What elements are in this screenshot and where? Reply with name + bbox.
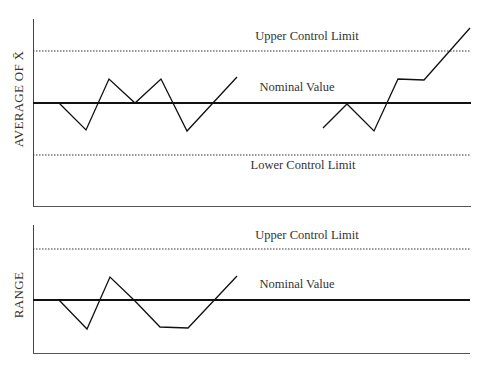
upper-control-limit-label: Upper Control Limit	[255, 228, 358, 243]
xbar-chart	[33, 19, 471, 207]
control-charts	[0, 0, 487, 371]
data-line-segment-1	[59, 276, 237, 329]
nominal-value-label: Nominal Value	[259, 277, 334, 292]
y-axis-label-range: RANGE	[11, 272, 27, 318]
lower-control-limit-label: Lower Control Limit	[251, 158, 356, 173]
range-chart	[33, 225, 470, 354]
upper-control-limit-label: Upper Control Limit	[255, 29, 358, 44]
y-axis-label-average: AVERAGE OF X̄	[11, 51, 27, 148]
nominal-value-label: Nominal Value	[259, 80, 334, 95]
